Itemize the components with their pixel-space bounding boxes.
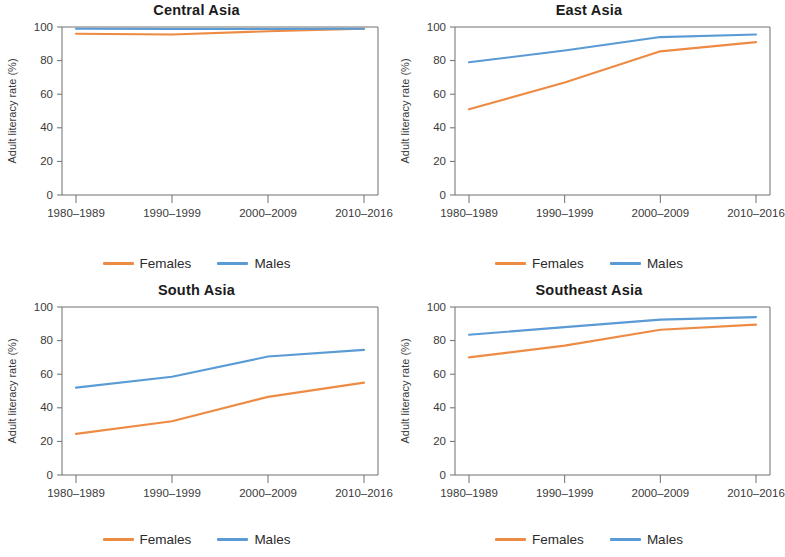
- legend-swatch-males: [217, 538, 248, 540]
- legend-entry-males: Males: [217, 256, 290, 271]
- y-tick-label: 20: [40, 155, 53, 167]
- y-tick-label: 0: [440, 469, 446, 481]
- x-tick-label: 1990–1999: [536, 207, 594, 219]
- legend-entry-females: Females: [103, 256, 192, 271]
- legend-entry-males: Males: [610, 256, 683, 271]
- series-line-males: [469, 35, 756, 63]
- y-axis-label: Adult literacy rate (%): [399, 58, 411, 163]
- y-tick-label: 60: [40, 368, 53, 380]
- y-tick-label: 80: [433, 334, 446, 346]
- y-tick-label: 100: [34, 21, 53, 33]
- legend-label-males: Males: [647, 532, 683, 547]
- panel-central-asia: Central Asia 0204060801001980–19891990–1…: [0, 0, 393, 280]
- y-tick-label: 100: [427, 301, 446, 313]
- legend-swatch-females: [103, 262, 134, 264]
- x-tick-label: 2010–2016: [727, 207, 785, 219]
- y-tick-label: 60: [40, 88, 53, 100]
- legend-label-females: Females: [532, 532, 584, 547]
- line-chart-svg: 0204060801001980–19891990–19992000–20092…: [393, 280, 785, 557]
- legend-label-males: Males: [254, 532, 290, 547]
- legend-swatch-females: [495, 538, 526, 540]
- y-tick-label: 100: [34, 301, 53, 313]
- series-line-females: [469, 42, 756, 109]
- x-tick-label: 1980–1989: [440, 487, 498, 499]
- legend-swatch-males: [610, 262, 641, 264]
- line-chart-svg: 0204060801001980–19891990–19992000–20092…: [0, 280, 393, 557]
- x-tick-label: 2010–2016: [727, 487, 785, 499]
- legend-label-males: Males: [647, 256, 683, 271]
- legend-swatch-females: [103, 538, 134, 540]
- y-tick-label: 100: [427, 21, 446, 33]
- x-tick-label: 2000–2009: [239, 207, 297, 219]
- x-tick-label: 1990–1999: [536, 487, 594, 499]
- chart-legend: Females Males: [393, 256, 785, 271]
- legend-label-males: Males: [254, 256, 290, 271]
- x-tick-label: 2000–2009: [239, 487, 297, 499]
- legend-swatch-males: [217, 262, 248, 264]
- x-tick-label: 1990–1999: [143, 207, 201, 219]
- legend-entry-females: Females: [495, 532, 584, 547]
- series-line-females: [469, 325, 756, 358]
- x-tick-label: 2010–2016: [335, 487, 393, 499]
- legend-entry-females: Females: [495, 256, 584, 271]
- legend-entry-females: Females: [103, 532, 192, 547]
- y-tick-label: 80: [40, 54, 53, 66]
- y-tick-label: 0: [440, 189, 446, 201]
- y-tick-label: 60: [433, 368, 446, 380]
- y-tick-label: 20: [433, 435, 446, 447]
- y-axis-label: Adult literacy rate (%): [6, 58, 18, 163]
- chart-plot-area: 0204060801001980–19891990–19992000–20092…: [0, 280, 393, 557]
- axis-lines: [62, 307, 378, 475]
- legend-label-females: Females: [140, 532, 192, 547]
- axis-lines: [62, 27, 378, 195]
- legend-label-females: Females: [532, 256, 584, 271]
- y-tick-label: 40: [40, 121, 53, 133]
- y-tick-label: 0: [47, 469, 53, 481]
- y-tick-label: 60: [433, 88, 446, 100]
- line-chart-svg: 0204060801001980–19891990–19992000–20092…: [0, 0, 393, 280]
- x-tick-label: 2000–2009: [632, 487, 690, 499]
- y-axis-label: Adult literacy rate (%): [399, 338, 411, 443]
- x-tick-label: 2010–2016: [335, 207, 393, 219]
- x-tick-label: 1980–1989: [440, 207, 498, 219]
- y-tick-label: 0: [47, 189, 53, 201]
- y-tick-label: 20: [40, 435, 53, 447]
- line-chart-svg: 0204060801001980–19891990–19992000–20092…: [393, 0, 785, 280]
- y-tick-label: 40: [433, 121, 446, 133]
- legend-entry-males: Males: [217, 532, 290, 547]
- legend-swatch-males: [610, 538, 641, 540]
- y-tick-label: 20: [433, 155, 446, 167]
- y-tick-label: 40: [433, 401, 446, 413]
- chart-legend: Females Males: [393, 532, 785, 547]
- series-line-females: [76, 383, 364, 434]
- y-tick-label: 80: [433, 54, 446, 66]
- chart-legend: Females Males: [0, 532, 393, 547]
- panel-southeast-asia: Southeast Asia 0204060801001980–19891990…: [393, 280, 785, 557]
- panel-east-asia: East Asia 0204060801001980–19891990–1999…: [393, 0, 785, 280]
- series-line-males: [76, 350, 364, 388]
- chart-legend: Females Males: [0, 256, 393, 271]
- legend-label-females: Females: [140, 256, 192, 271]
- x-tick-label: 1990–1999: [143, 487, 201, 499]
- y-axis-label: Adult literacy rate (%): [6, 338, 18, 443]
- x-tick-label: 1980–1989: [47, 207, 105, 219]
- chart-plot-area: 0204060801001980–19891990–19992000–20092…: [393, 0, 785, 280]
- legend-entry-males: Males: [610, 532, 683, 547]
- y-tick-label: 80: [40, 334, 53, 346]
- axis-lines: [455, 27, 770, 195]
- x-tick-label: 1980–1989: [47, 487, 105, 499]
- chart-plot-area: 0204060801001980–19891990–19992000–20092…: [0, 0, 393, 280]
- panel-south-asia: South Asia 0204060801001980–19891990–199…: [0, 280, 393, 557]
- chart-plot-area: 0204060801001980–19891990–19992000–20092…: [393, 280, 785, 557]
- x-tick-label: 2000–2009: [632, 207, 690, 219]
- figure-grid: Central Asia 0204060801001980–19891990–1…: [0, 0, 785, 557]
- legend-swatch-females: [495, 262, 526, 264]
- y-tick-label: 40: [40, 401, 53, 413]
